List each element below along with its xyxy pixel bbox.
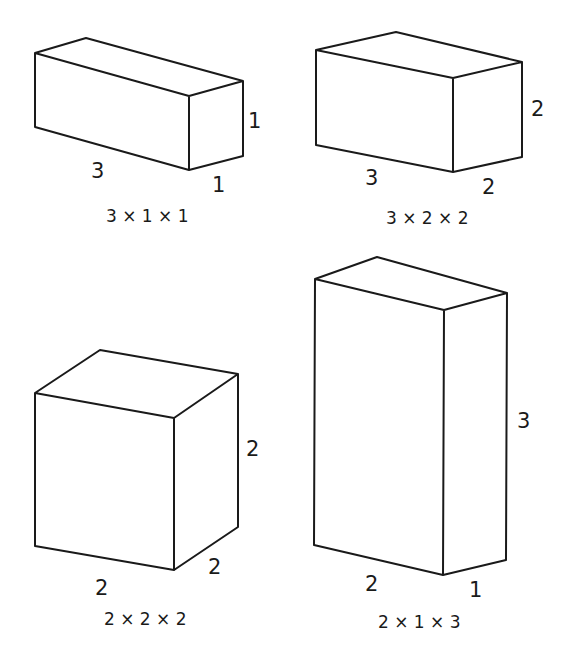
box-2x1x3: 2 1 3 2 × 1 × 3 — [314, 257, 530, 632]
depth-label: 2 — [482, 175, 495, 199]
height-label: 2 — [531, 97, 544, 121]
rectangular-prisms-diagram: 3 1 1 3 × 1 × 1 3 2 2 3 × 2 × 2 2 2 2 2 … — [0, 0, 569, 665]
length-label: 2 — [95, 576, 108, 600]
dimensions-caption: 2 × 2 × 2 — [104, 609, 187, 629]
dimensions-caption: 3 × 1 × 1 — [106, 206, 189, 226]
dimensions-caption: 2 × 1 × 3 — [378, 612, 461, 632]
length-label: 3 — [91, 159, 104, 183]
height-label: 3 — [517, 409, 530, 433]
box-outline — [316, 32, 522, 172]
height-label: 1 — [248, 109, 261, 133]
depth-label: 1 — [469, 578, 482, 602]
box-outline — [35, 38, 243, 170]
box-outline — [35, 350, 238, 570]
box-2x2x2: 2 2 2 2 × 2 × 2 — [35, 350, 259, 629]
dimensions-caption: 3 × 2 × 2 — [386, 208, 469, 228]
depth-label: 2 — [208, 555, 221, 579]
box-3x1x1: 3 1 1 3 × 1 × 1 — [35, 38, 261, 226]
box-3x2x2: 3 2 2 3 × 2 × 2 — [316, 32, 544, 228]
length-label: 3 — [365, 166, 378, 190]
box-outline — [314, 257, 507, 575]
depth-label: 1 — [212, 173, 225, 197]
length-label: 2 — [365, 572, 378, 596]
height-label: 2 — [246, 437, 259, 461]
